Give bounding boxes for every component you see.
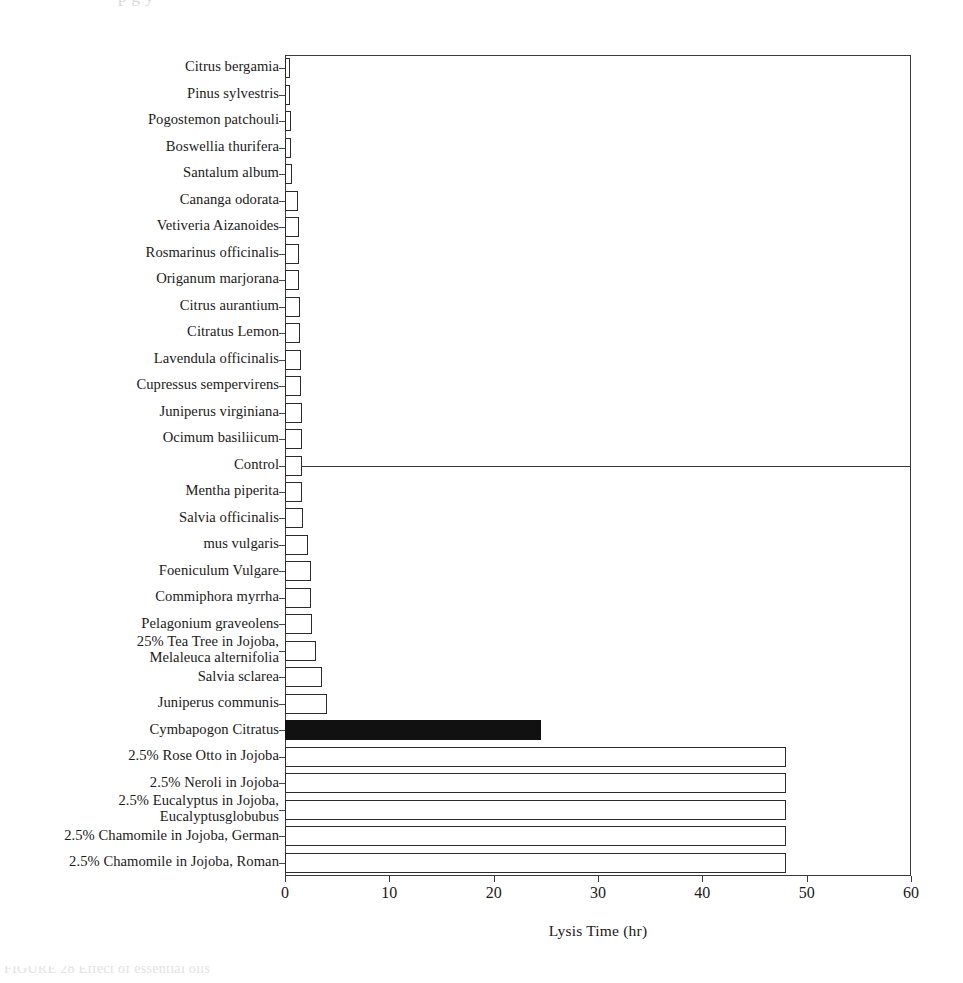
bar <box>285 667 322 687</box>
bar <box>285 138 291 158</box>
y-axis-label: Commiphora myrrha <box>155 589 285 604</box>
y-axis-label: Salvia officinalis <box>179 510 285 525</box>
y-axis-tick <box>279 280 285 281</box>
y-axis-tick <box>279 598 285 599</box>
y-axis-tick <box>279 518 285 519</box>
y-axis-label: Rosmarinus officinalis <box>146 245 285 260</box>
y-axis-label: Pelagonium graveolens <box>141 616 285 631</box>
bar <box>285 270 299 290</box>
y-axis-tick <box>279 333 285 334</box>
y-axis-tick <box>279 413 285 414</box>
x-axis-tick-label: 30 <box>568 884 628 902</box>
x-axis-tick-label: 60 <box>881 884 941 902</box>
bar <box>285 111 291 131</box>
y-axis-tick <box>279 121 285 122</box>
x-axis-tick <box>702 876 703 882</box>
x-axis-tick-label: 50 <box>777 884 837 902</box>
bar <box>285 350 301 370</box>
y-axis-tick <box>279 545 285 546</box>
y-axis-label: Control <box>234 457 285 472</box>
bar <box>285 164 292 184</box>
bar <box>285 403 302 423</box>
x-axis-tick <box>598 876 599 882</box>
y-axis-tick <box>279 624 285 625</box>
y-axis-label: Juniperus communis <box>158 695 285 710</box>
bar <box>285 800 786 820</box>
bar <box>285 508 303 528</box>
y-axis-label: 2.5% Eucalyptus in Jojoba, Eucalyptusglo… <box>118 793 285 824</box>
y-axis-tick <box>279 254 285 255</box>
bar <box>285 588 311 608</box>
bar <box>285 694 327 714</box>
y-axis-label: 2.5% Chamomile in Jojoba, German <box>64 828 285 843</box>
y-axis-label: Pogostemon patchouli <box>148 112 285 127</box>
y-axis-tick <box>279 704 285 705</box>
x-axis-title: Lysis Time (hr) <box>285 922 911 940</box>
bar <box>285 853 786 873</box>
y-axis-tick <box>279 386 285 387</box>
bar <box>285 244 299 264</box>
y-axis-tick <box>279 227 285 228</box>
y-axis-label: 2.5% Rose Otto in Jojoba <box>128 748 285 763</box>
bar <box>285 826 786 846</box>
bar <box>285 773 786 793</box>
y-axis-label: Juniperus virginiana <box>160 404 286 419</box>
y-axis-label: Salvia sclarea <box>198 669 285 684</box>
horizontal-bar-chart: Citrus bergamiaPinus sylvestrisPogostemo… <box>0 0 963 983</box>
x-axis-tick <box>911 876 912 882</box>
x-axis-tick <box>494 876 495 882</box>
y-axis-label: mus vulgaris <box>203 536 285 551</box>
bar <box>285 482 302 502</box>
bar <box>285 85 290 105</box>
bar <box>285 217 299 237</box>
bar <box>285 720 541 740</box>
y-axis-label: Citrus aurantium <box>180 298 285 313</box>
y-axis-label: Ocimum basiliicum <box>163 430 285 445</box>
y-axis-label: Cupressus sempervirens <box>136 377 285 392</box>
bar <box>285 191 298 211</box>
y-axis-label: Citratus Lemon <box>187 324 285 339</box>
x-axis-tick-label: 40 <box>672 884 732 902</box>
y-axis-label: Citrus bergamia <box>185 59 285 74</box>
bars-layer <box>285 55 911 876</box>
y-axis-tick <box>279 677 285 678</box>
y-axis-tick <box>279 307 285 308</box>
y-axis-tick <box>279 68 285 69</box>
y-axis-tick <box>279 810 285 811</box>
y-axis-label: 2.5% Chamomile in Jojoba, Roman <box>69 854 285 869</box>
y-axis-label: Origanum marjorana <box>156 271 285 286</box>
y-axis-label: Pinus sylvestris <box>187 86 285 101</box>
y-axis-tick <box>279 571 285 572</box>
y-axis-tick <box>279 466 285 467</box>
bar <box>285 614 312 634</box>
y-axis-label: 2.5% Neroli in Jojoba <box>150 775 285 790</box>
y-axis-tick <box>279 730 285 731</box>
x-axis-tick-label: 0 <box>255 884 315 902</box>
y-axis-tick <box>279 439 285 440</box>
y-axis-tick <box>279 757 285 758</box>
bar <box>285 456 302 476</box>
x-axis-tick-label: 10 <box>359 884 419 902</box>
y-axis-tick <box>279 148 285 149</box>
figure-caption-fragment: FIGURE 28 Effect of essential oils <box>4 966 210 977</box>
y-axis-tick <box>279 201 285 202</box>
bar <box>285 376 301 396</box>
bar <box>285 747 786 767</box>
y-axis-tick <box>279 783 285 784</box>
y-axis-label: Lavendula officinalis <box>154 351 285 366</box>
bar <box>285 429 302 449</box>
y-axis-label: Vetiveria Aizanoides <box>157 218 285 233</box>
bar <box>285 58 290 78</box>
bar <box>285 641 316 661</box>
y-axis-label: Mentha piperita <box>185 483 285 498</box>
page-bottom-bleed: FIGURE 28 Effect of essential oils <box>0 966 963 983</box>
y-axis-label: Santalum album <box>183 165 285 180</box>
x-axis-tick <box>807 876 808 882</box>
x-axis-tick <box>389 876 390 882</box>
y-axis-label: 25% Tea Tree in Jojoba, Melaleuca altern… <box>137 634 285 665</box>
y-axis-label: Cymbapogon Citratus <box>150 722 285 737</box>
y-axis-tick <box>279 651 285 652</box>
x-axis-tick <box>285 876 286 882</box>
y-axis-label: Boswellia thurifera <box>166 139 285 154</box>
y-axis-tick <box>279 360 285 361</box>
